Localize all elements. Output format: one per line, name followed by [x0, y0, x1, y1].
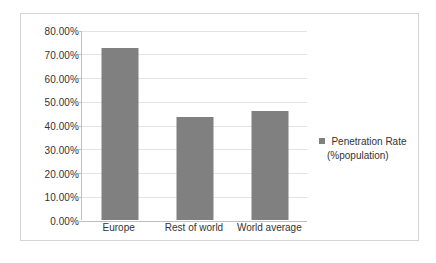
chart-legend: Penetration Rate (%population): [319, 131, 417, 162]
bar-slot: [233, 31, 308, 221]
y-axis-tick-label: 60.00%: [44, 73, 79, 84]
y-axis-tick-label: 30.00%: [44, 144, 79, 155]
plot-area: [81, 31, 307, 221]
bar: [176, 117, 213, 220]
x-axis-category-labels: EuropeRest of worldWorld average: [81, 222, 306, 240]
y-axis-tick-label: 70.00%: [44, 49, 79, 60]
legend-entry: Penetration Rate (%population): [319, 131, 417, 162]
y-axis-tick-label: 50.00%: [44, 97, 79, 108]
chart-frame: 80.00%70.00%60.00%50.00%40.00%30.00%20.0…: [20, 13, 419, 241]
bars: [82, 31, 307, 221]
legend-label-line-1: Penetration Rate: [331, 136, 406, 147]
bar-slot: [82, 31, 157, 221]
x-axis-tick-label: Rest of world: [156, 222, 231, 233]
legend-label-line-2: (%population): [319, 149, 417, 162]
y-axis-tick-label: 20.00%: [44, 168, 79, 179]
bar-slot: [157, 31, 232, 221]
x-axis-tick-label: Europe: [81, 222, 156, 233]
legend-swatch-icon: [319, 138, 325, 144]
y-axis-tick-label: 0.00%: [50, 216, 79, 227]
x-axis-tick-label: World average: [232, 222, 307, 233]
y-axis-tick-label: 10.00%: [44, 192, 79, 203]
bar: [101, 48, 138, 220]
y-axis-tick-labels: 80.00%70.00%60.00%50.00%40.00%30.00%20.0…: [25, 24, 79, 220]
y-axis-tick-label: 80.00%: [44, 26, 79, 37]
chart-plot-wrapper: 80.00%70.00%60.00%50.00%40.00%30.00%20.0…: [21, 14, 418, 240]
bar: [252, 111, 289, 220]
y-axis-tick-label: 40.00%: [44, 121, 79, 132]
